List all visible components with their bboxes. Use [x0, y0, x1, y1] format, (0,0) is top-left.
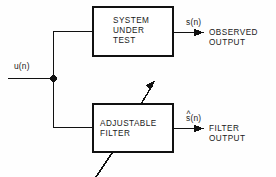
system-under-test-label-line3: TEST — [113, 36, 136, 46]
estimate-signal-label: ^s(n) — [186, 114, 201, 124]
filter-output-arrowhead — [194, 125, 204, 133]
filter-output-label-line2: OUTPUT — [209, 134, 245, 144]
system-under-test-label-line2: UNDER — [113, 26, 144, 36]
input-signal-label: u(n) — [14, 62, 30, 72]
estimate-hat-accent: ^ — [186, 110, 191, 118]
observed-output-label-line2: OUTPUT — [209, 38, 245, 48]
adjustable-filter-label-line2: FILTER — [100, 129, 130, 139]
observed-output-label-line1: OBSERVED — [209, 28, 258, 38]
observed-output-arrowhead — [194, 29, 204, 37]
adaptation-arrowhead — [145, 81, 155, 90]
observed-signal-label: s(n) — [186, 18, 201, 28]
filter-output-label-line1: FILTER — [209, 124, 239, 134]
filter-adjust-tick-line — [96, 153, 112, 177]
block-diagram: SYSTEM UNDER TEST ADJUSTABLE FILTER u(n)… — [0, 0, 276, 177]
junction-dot — [50, 75, 57, 82]
system-under-test-label-line1: SYSTEM — [113, 16, 149, 26]
adjustable-filter-label-line1: ADJUSTABLE — [100, 119, 157, 129]
